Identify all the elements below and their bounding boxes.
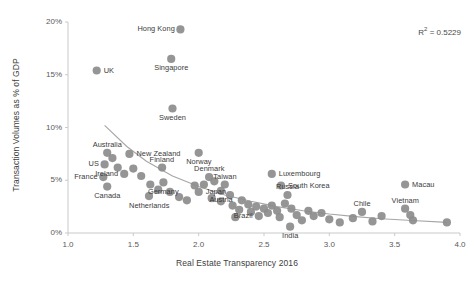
y-tick-label: 10% <box>28 123 62 132</box>
data-point <box>159 178 167 186</box>
data-point-label: Luxembourg <box>279 169 321 178</box>
data-point <box>158 164 166 172</box>
x-tick-label: 1.5 <box>116 240 150 249</box>
data-point <box>176 25 184 33</box>
data-point <box>276 213 284 221</box>
data-point-label: India <box>282 231 298 240</box>
data-point-label: Sweden <box>159 113 186 122</box>
x-axis-title: Real Estate Transparency 2016 <box>0 258 474 268</box>
r-squared-annotation: R2 = 0.5229 <box>418 26 461 37</box>
data-point-label: Taiwan <box>213 172 236 181</box>
data-point-label: Australia <box>93 140 122 149</box>
y-tick-label: 5% <box>28 175 62 184</box>
x-tick-label: 1.0 <box>51 240 85 249</box>
data-point <box>255 212 263 220</box>
data-point <box>401 180 409 188</box>
data-point <box>349 214 357 222</box>
data-point-label: UK <box>104 66 114 75</box>
data-point-label: Russia <box>276 182 299 191</box>
data-point <box>283 191 291 199</box>
data-point-label: Ireland <box>95 169 118 178</box>
data-point <box>325 215 333 223</box>
data-point <box>287 205 295 213</box>
data-point <box>409 216 417 224</box>
data-point <box>281 199 289 207</box>
data-point <box>336 218 344 226</box>
data-point <box>129 165 137 173</box>
y-tick-label: 0% <box>28 228 62 237</box>
data-point <box>286 223 294 231</box>
data-point-label: Singapore <box>154 63 188 72</box>
x-tick-label: 4.0 <box>443 240 474 249</box>
x-tick-label: 3.5 <box>378 240 412 249</box>
data-point <box>268 170 276 178</box>
data-point-label: US <box>89 159 99 168</box>
data-point <box>378 212 386 220</box>
data-point <box>103 183 111 191</box>
x-tick-label: 3.0 <box>312 240 346 249</box>
x-tick-label: 2.5 <box>247 240 281 249</box>
data-point <box>443 218 451 226</box>
data-point <box>101 160 109 168</box>
data-point <box>168 104 176 112</box>
data-point <box>310 212 318 220</box>
r-squared-value: = 0.5229 <box>427 28 461 37</box>
y-axis-title: Transaction Volumes as % of GDP <box>11 35 21 215</box>
data-point-label: Austria <box>209 195 232 204</box>
data-point-label: Brazil <box>234 211 253 220</box>
data-point-label: Hong Kong <box>137 24 174 33</box>
data-point <box>93 66 101 74</box>
data-point-label: Vietnam <box>392 196 419 205</box>
data-point <box>298 216 306 224</box>
data-point-label: Chile <box>354 199 371 208</box>
data-point <box>264 209 272 217</box>
data-point-label: Finland <box>150 155 175 164</box>
data-point <box>368 217 376 225</box>
data-point <box>317 209 325 217</box>
data-point <box>120 170 128 178</box>
data-point <box>137 172 145 180</box>
chart-container: Transaction Volumes as % of GDP Real Est… <box>0 0 474 288</box>
data-point <box>125 150 133 158</box>
data-point <box>358 208 366 216</box>
data-point <box>401 205 409 213</box>
data-point <box>195 149 203 157</box>
data-point-label: France <box>74 172 97 181</box>
data-point-label: Canada <box>94 191 120 200</box>
data-point <box>244 200 252 208</box>
data-point <box>252 203 260 211</box>
data-point <box>167 55 175 63</box>
x-tick-label: 2.0 <box>182 240 216 249</box>
data-point-label: Macau <box>412 180 434 189</box>
data-point-label: Netherlands <box>129 201 169 210</box>
data-point <box>183 196 191 204</box>
y-tick-label: 15% <box>28 70 62 79</box>
data-point <box>191 181 199 189</box>
data-point-label: Germany <box>148 187 179 196</box>
data-point <box>108 154 116 162</box>
y-tick-label: 20% <box>28 17 62 26</box>
